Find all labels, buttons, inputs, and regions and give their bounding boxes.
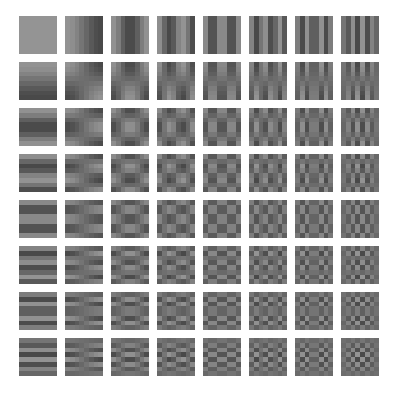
dct-basis-cell <box>282 233 287 238</box>
dct-basis-tile <box>111 246 149 284</box>
dct-basis-tile <box>249 200 287 238</box>
dct-basis-cell <box>190 325 195 330</box>
dct-basis-tile <box>65 338 103 376</box>
dct-basis-tile <box>65 16 103 54</box>
dct-basis-cell <box>52 325 57 330</box>
dct-basis-tile <box>295 108 333 146</box>
dct-basis-cell <box>374 95 379 100</box>
dct-basis-cell <box>144 279 149 284</box>
dct-basis-cell <box>98 325 103 330</box>
dct-basis-tile <box>203 16 241 54</box>
dct-basis-tile <box>249 338 287 376</box>
dct-basis-cell <box>144 49 149 54</box>
dct-basis-tile <box>111 338 149 376</box>
dct-basis-cell <box>98 187 103 192</box>
dct-basis-cell <box>236 371 241 376</box>
dct-basis-cell <box>144 325 149 330</box>
dct-basis-cell <box>374 371 379 376</box>
dct-basis-cell <box>282 187 287 192</box>
dct-basis-tile <box>249 292 287 330</box>
dct-basis-cell <box>328 325 333 330</box>
dct-basis-tile <box>19 154 57 192</box>
dct-basis-cell <box>236 95 241 100</box>
dct-basis-tile <box>341 154 379 192</box>
dct-basis-tile <box>341 62 379 100</box>
dct-basis-figure <box>0 0 402 412</box>
dct-basis-tile <box>203 154 241 192</box>
dct-basis-tile <box>203 246 241 284</box>
dct-basis-cell <box>282 95 287 100</box>
dct-basis-tile <box>157 292 195 330</box>
dct-basis-cell <box>328 187 333 192</box>
dct-basis-tile <box>341 338 379 376</box>
dct-basis-tile <box>249 108 287 146</box>
dct-basis-cell <box>374 279 379 284</box>
dct-basis-tile <box>65 246 103 284</box>
dct-basis-cell <box>282 371 287 376</box>
dct-basis-cell <box>52 187 57 192</box>
dct-basis-cell <box>236 325 241 330</box>
dct-basis-cell <box>52 279 57 284</box>
dct-basis-tile <box>157 154 195 192</box>
dct-basis-tile <box>19 16 57 54</box>
dct-basis-tile <box>111 16 149 54</box>
dct-basis-cell <box>282 49 287 54</box>
dct-basis-cell <box>282 141 287 146</box>
dct-basis-tile <box>249 16 287 54</box>
dct-basis-cell <box>190 233 195 238</box>
dct-basis-tile <box>157 62 195 100</box>
dct-basis-tile <box>203 62 241 100</box>
dct-basis-tile <box>111 62 149 100</box>
dct-basis-tile <box>157 16 195 54</box>
dct-basis-cell <box>374 325 379 330</box>
dct-basis-cell <box>236 279 241 284</box>
dct-basis-cell <box>144 371 149 376</box>
dct-basis-tile <box>249 62 287 100</box>
dct-basis-cell <box>144 233 149 238</box>
dct-basis-cell <box>374 141 379 146</box>
dct-basis-cell <box>328 141 333 146</box>
dct-basis-tile <box>295 338 333 376</box>
dct-basis-tile <box>19 200 57 238</box>
dct-basis-cell <box>190 49 195 54</box>
dct-basis-tile <box>249 154 287 192</box>
dct-basis-cell <box>98 233 103 238</box>
dct-basis-cell <box>98 371 103 376</box>
dct-basis-cell <box>144 141 149 146</box>
dct-basis-tile <box>295 246 333 284</box>
dct-basis-cell <box>236 49 241 54</box>
dct-basis-tile <box>295 154 333 192</box>
dct-basis-cell <box>328 95 333 100</box>
dct-basis-cell <box>328 49 333 54</box>
dct-basis-tile <box>65 292 103 330</box>
dct-basis-tile <box>65 154 103 192</box>
dct-basis-cell <box>190 95 195 100</box>
dct-basis-tile <box>157 246 195 284</box>
dct-basis-tile <box>111 200 149 238</box>
dct-basis-cell <box>98 141 103 146</box>
dct-basis-tile <box>111 108 149 146</box>
dct-basis-cell <box>328 371 333 376</box>
dct-basis-cell <box>190 279 195 284</box>
dct-basis-cell <box>328 233 333 238</box>
dct-basis-tile <box>203 292 241 330</box>
dct-basis-tile <box>19 108 57 146</box>
dct-basis-tile <box>111 154 149 192</box>
dct-basis-cell <box>52 95 57 100</box>
dct-basis-tile <box>341 200 379 238</box>
dct-basis-tile <box>157 200 195 238</box>
dct-basis-tile <box>203 338 241 376</box>
dct-basis-tile <box>157 338 195 376</box>
dct-basis-tile <box>19 338 57 376</box>
dct-basis-cell <box>236 141 241 146</box>
dct-basis-tile <box>341 16 379 54</box>
dct-basis-tile <box>65 62 103 100</box>
dct-basis-cell <box>52 141 57 146</box>
dct-basis-cell <box>374 49 379 54</box>
dct-basis-cell <box>374 233 379 238</box>
dct-basis-cell <box>328 279 333 284</box>
dct-basis-tile <box>19 62 57 100</box>
dct-basis-cell <box>190 141 195 146</box>
dct-basis-cell <box>374 187 379 192</box>
dct-basis-cell <box>144 95 149 100</box>
